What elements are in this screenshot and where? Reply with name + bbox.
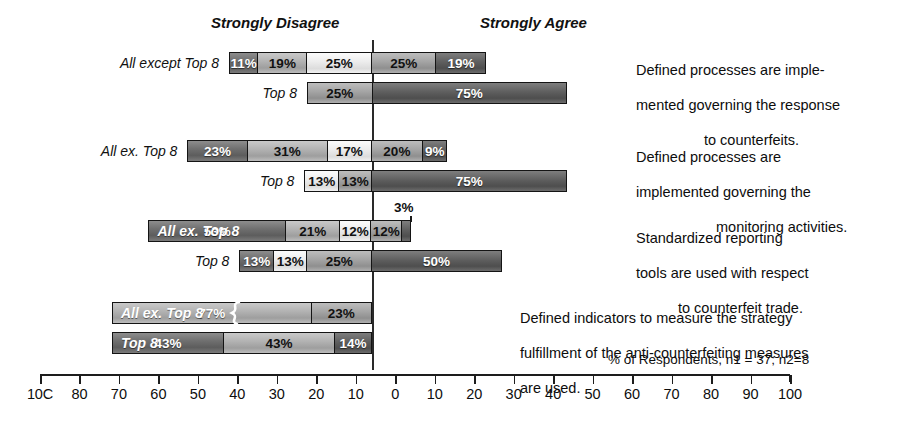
axis-tick-label: 50 (585, 386, 601, 402)
series-label: All ex. Top 8 (157, 220, 239, 242)
stacked-bar[interactable]: 11%19%25%25%19% (229, 52, 486, 74)
axis-tick-label: 30 (506, 386, 522, 402)
segment-value-label: 75% (456, 86, 483, 101)
axis-tick-label: 50 (190, 386, 206, 402)
axis-tick-label: 30 (269, 386, 285, 402)
axis-tick (672, 375, 674, 384)
bar-segment[interactable]: 13% (305, 171, 339, 191)
bar-segment[interactable]: 25% (307, 53, 372, 73)
axis-tick-label: 80 (71, 386, 87, 402)
bar-segment[interactable]: 12% (340, 221, 371, 241)
axis-tick (751, 375, 753, 384)
segment-value-label: 20% (383, 144, 410, 159)
series-label: Top 8 (30, 250, 229, 272)
segment-value-label: 21% (299, 224, 326, 239)
stacked-bar[interactable]: 23%31%17%20%9% (187, 140, 447, 162)
segment-value-label: 9% (425, 144, 445, 159)
caption-2-line-1: Defined processes are (636, 149, 847, 167)
axis-tick (316, 375, 318, 384)
axis-tick (514, 375, 516, 384)
bar-segment[interactable]: 13% (274, 251, 308, 271)
series-label: All ex. Top 8 (30, 140, 177, 162)
axis-tick (593, 375, 595, 384)
stacked-bar[interactable]: 13%13%75% (304, 170, 567, 192)
axis-tick-label: 60 (624, 386, 640, 402)
axis-tick-label: 70 (664, 386, 680, 402)
segment-value-label: 25% (326, 254, 353, 269)
caption-4-line-1: Defined indicators to measure the strate… (520, 310, 809, 328)
bar-segment[interactable]: 25% (308, 83, 373, 103)
diverging-bar-chart: Strongly Disagree Strongly Agree 11%19%2… (0, 0, 913, 425)
bar-segment[interactable]: 19% (258, 53, 307, 73)
segment-value-label: 19% (269, 56, 296, 71)
segment-value-label: 13% (243, 254, 270, 269)
axis-tick (711, 375, 713, 384)
caption-2-line-2: implemented governing the (636, 184, 847, 202)
bar-segment[interactable]: 25% (307, 251, 372, 271)
axis-tick (435, 375, 437, 384)
segment-value-label: 13% (342, 174, 369, 189)
callout-leader-line (410, 216, 412, 222)
axis-tick-label: 20 (466, 386, 482, 402)
axis-tick-label: 40 (229, 386, 245, 402)
segment-value-label: 43% (154, 336, 181, 351)
bar-segment[interactable]: 13% (240, 251, 274, 271)
segment-value-label: 25% (326, 56, 353, 71)
x-axis-line (40, 374, 790, 376)
axis-tick (356, 375, 358, 384)
series-label: Top 8 (30, 170, 294, 192)
axis-tick (395, 375, 397, 384)
series-label: All ex. Top 8 (121, 302, 203, 324)
axis-tick (79, 375, 81, 384)
segment-value-label: 12% (373, 224, 400, 239)
segment-value-label: 12% (342, 224, 369, 239)
segment-value-label: 25% (326, 86, 353, 101)
bar-segment[interactable]: 17% (328, 141, 372, 161)
segment-value-label: 11% (231, 56, 257, 71)
axis-tick (474, 375, 476, 384)
x-axis: 10C8070605040302010010203040506070809010… (0, 370, 913, 425)
segment-value-label: 43% (265, 336, 292, 351)
bar-segment[interactable]: 31% (248, 141, 328, 161)
bar-segment[interactable]: 14% (335, 333, 371, 353)
caption-1-line-2: mented governing the response (636, 97, 840, 115)
axis-tick-label: 90 (742, 386, 758, 402)
series-label: All except Top 8 (30, 52, 219, 74)
bar-segment[interactable]: 9% (423, 141, 446, 161)
segment-value-label: 75% (456, 174, 483, 189)
bar-segment[interactable]: 23% (312, 303, 371, 323)
axis-tick-label: 10C (27, 386, 53, 402)
segment-value-label: 14% (339, 336, 366, 351)
axis-tick-label: 0 (391, 386, 399, 402)
bar-segment[interactable]: 11% (230, 53, 258, 73)
axis-tick-label: 70 (111, 386, 127, 402)
bar-segment[interactable]: 43% (224, 333, 335, 353)
bar-segment[interactable]: 21% (286, 221, 340, 241)
axis-tick-label: 80 (703, 386, 719, 402)
caption-1-line-1: Defined processes are imple- (636, 62, 840, 80)
bar-segment[interactable]: 75% (372, 171, 566, 191)
bar-segment[interactable]: 23% (188, 141, 247, 161)
axis-tick-label: 10 (427, 386, 443, 402)
segment-value-label: 50% (423, 254, 450, 269)
scale-header-strongly-disagree: Strongly Disagree (211, 14, 339, 31)
axis-tick (198, 375, 200, 384)
bar-segment[interactable]: 25% (372, 53, 437, 73)
axis-tick-label: 40 (545, 386, 561, 402)
bar-segment[interactable]: 13% (339, 171, 373, 191)
segment-value-label: 25% (390, 56, 417, 71)
series-label: Top 8 (121, 332, 158, 354)
axis-tick-label: 60 (150, 386, 166, 402)
bar-segment[interactable]: 3% (402, 221, 410, 241)
bar-segment[interactable]: 20% (372, 141, 424, 161)
axis-tick (237, 375, 239, 384)
stacked-bar[interactable]: 25%75% (307, 82, 567, 104)
axis-tick-label: 10 (348, 386, 364, 402)
bar-segment[interactable]: 19% (436, 53, 485, 73)
respondents-note: % of Respondents, n1 = 37; n2=8 (608, 352, 809, 367)
bar-segment[interactable]: 12% (371, 221, 402, 241)
axis-tick (158, 375, 160, 384)
bar-segment[interactable]: 50% (372, 251, 501, 271)
bar-segment[interactable]: 75% (373, 83, 567, 103)
stacked-bar[interactable]: 13%13%25%50% (239, 250, 502, 272)
